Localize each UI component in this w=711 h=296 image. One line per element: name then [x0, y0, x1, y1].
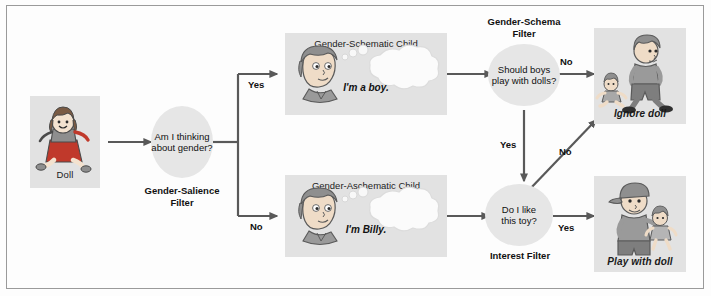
label-interest-filter: Interest Filter: [474, 250, 566, 262]
aschematic-child-thought: I'm Billy.: [285, 224, 447, 235]
node-gender-salience[interactable]: Am I thinking about gender?: [151, 106, 213, 178]
salience-question-line1: Am I thinking: [151, 131, 212, 143]
edge-label-interest-no: No: [559, 146, 572, 157]
interest-question-line2: this toy?: [501, 215, 536, 227]
label-gender-schema-filter: Gender-Schema Filter: [469, 16, 579, 39]
doll-caption: Doll: [30, 169, 100, 180]
panel-gender-aschematic-child: Gender-Aschematic Child I'm Billy.: [285, 175, 447, 257]
panel-gender-schematic-child: Gender-Schematic Child: [285, 33, 447, 115]
edge-label-interest-yes: Yes: [558, 222, 574, 233]
salience-filter-line1: Gender-Salience: [130, 185, 234, 197]
edge-label-salience-no: No: [250, 221, 263, 232]
label-gender-salience-filter: Gender-Salience Filter: [130, 185, 234, 208]
ignore-doll-caption: Ignore doll: [594, 108, 686, 119]
edge-label-schema-no: No: [560, 56, 573, 67]
play-with-doll-caption: Play with doll: [594, 256, 686, 267]
panel-play-with-doll: Play with doll: [594, 176, 686, 272]
panel-ignore-doll: Ignore doll: [594, 28, 686, 124]
edge-label-salience-yes: Yes: [248, 79, 264, 90]
schema-question-line1: Should boys: [492, 64, 556, 76]
schema-filter-line2: Filter: [469, 28, 579, 40]
edge-label-schema-yes: Yes: [500, 139, 516, 150]
salience-question-line2: about gender?: [151, 142, 212, 154]
schema-question-line2: play with dolls?: [492, 75, 556, 87]
panel-doll: Doll: [30, 96, 100, 188]
schematic-child-thought: I'm a boy.: [285, 82, 447, 93]
node-gender-schema[interactable]: Should boys play with dolls?: [488, 44, 560, 106]
aschematic-child-illustration: [285, 175, 447, 257]
salience-filter-line2: Filter: [130, 197, 234, 209]
interest-filter-line1: Interest Filter: [474, 250, 566, 262]
interest-question-line1: Do I like: [501, 204, 536, 216]
schematic-child-illustration: [285, 33, 447, 115]
figure-canvas: Doll Am I thinking about gender? Gender-…: [0, 0, 711, 296]
schema-filter-line1: Gender-Schema: [469, 16, 579, 28]
node-interest-filter[interactable]: Do I like this toy?: [485, 184, 553, 246]
